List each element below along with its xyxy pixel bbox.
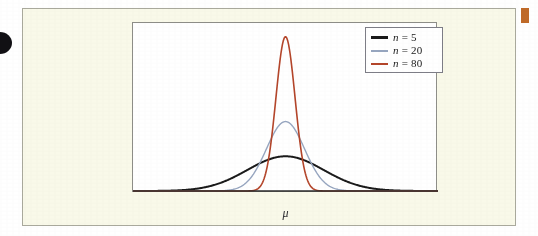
- scan-artifact-left-blob: [0, 32, 12, 54]
- legend-label-n80: n = 80: [393, 57, 422, 70]
- plot-panel: n = 5 n = 20 n = 80 μ: [132, 22, 437, 192]
- legend-item: n = 20: [371, 44, 437, 57]
- legend-swatch-n80: [371, 63, 388, 65]
- chart-legend: n = 5 n = 20 n = 80: [365, 27, 443, 73]
- curve-n-5: [133, 156, 438, 191]
- scan-artifact-right-tab: [521, 8, 529, 23]
- x-axis-label: μ: [133, 206, 438, 221]
- figure-page: n = 5 n = 20 n = 80 μ: [22, 8, 516, 226]
- legend-swatch-n20: [371, 50, 388, 52]
- legend-label-n5: n = 5: [393, 31, 417, 44]
- legend-label-n20: n = 20: [393, 44, 422, 57]
- legend-item: n = 5: [371, 31, 437, 44]
- legend-swatch-n5: [371, 36, 388, 39]
- figure-stage: n = 5 n = 20 n = 80 μ: [0, 0, 538, 236]
- legend-item: n = 80: [371, 57, 437, 70]
